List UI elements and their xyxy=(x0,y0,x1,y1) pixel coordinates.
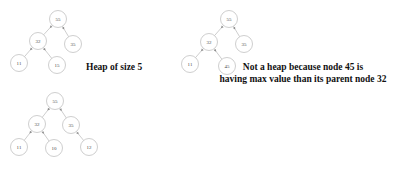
tree-node-value: 35 xyxy=(242,42,248,47)
tree-node: 55 xyxy=(221,11,238,28)
caption-heap-of-size-5: Heap of size 5 xyxy=(86,62,142,74)
tree-node-value: 11 xyxy=(17,61,22,66)
tree-node-value: 12 xyxy=(87,145,93,150)
tree-node: 55 xyxy=(47,93,64,110)
tree-node: 35 xyxy=(65,36,82,53)
tree-node: 35 xyxy=(236,36,253,53)
tree-node: 10 xyxy=(46,140,63,157)
tree-node-value: 32 xyxy=(36,39,42,44)
caption-not-a-heap-line-1: Not a heap because node 45 is xyxy=(190,62,416,74)
tree-node: 55 xyxy=(50,11,67,28)
tree-node-value: 32 xyxy=(207,40,213,45)
tree-node-value: 11 xyxy=(17,145,22,150)
tree-node-value: 35 xyxy=(69,123,75,128)
tree-node: 32 xyxy=(201,34,218,51)
tree-node: 11 xyxy=(11,139,28,156)
binary-tree-heap-size-6: 553235111012 xyxy=(0,88,120,171)
tree-node: 11 xyxy=(11,55,28,72)
tree-node: 35 xyxy=(63,117,80,134)
figure-canvas: 5532351115 5532351145 553235111012 Heap … xyxy=(0,0,416,171)
tree-node-value: 10 xyxy=(52,146,58,151)
tree-node: 32 xyxy=(29,116,46,133)
tree-node-value: 55 xyxy=(53,99,59,104)
tree-node: 12 xyxy=(81,139,98,156)
caption-not-a-heap-line-2: having max value than its parent node 32 xyxy=(190,74,416,86)
tree-node-value: 15 xyxy=(55,63,61,68)
caption-not-a-heap: Not a heap because node 45 is having max… xyxy=(190,62,416,85)
tree-node: 15 xyxy=(49,57,66,74)
tree-node-value: 55 xyxy=(56,17,62,22)
tree-node-value: 55 xyxy=(227,17,233,22)
tree-node-value: 32 xyxy=(35,122,41,127)
tree-node: 32 xyxy=(30,33,47,50)
tree-node-value: 35 xyxy=(71,42,77,47)
